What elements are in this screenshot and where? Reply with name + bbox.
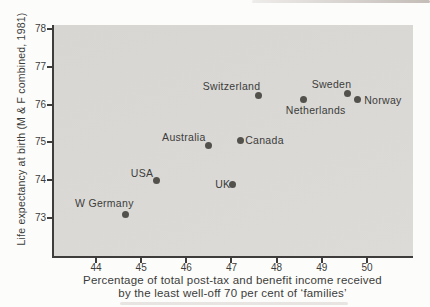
y-axis-label: Life expectancy at birth (M & F combined… xyxy=(15,13,27,246)
data-point-label-sweden: Sweden xyxy=(312,78,352,90)
data-point-label-usa: USA xyxy=(131,167,154,179)
data-point-label-switzerland: Switzerland xyxy=(203,80,261,92)
x-axis-label-line1: Percentage of total post-tax and benefit… xyxy=(52,274,413,286)
plot-area xyxy=(52,25,413,258)
scan-artifact-top xyxy=(252,0,430,3)
data-point-canada xyxy=(237,137,244,144)
data-point-label-netherlands: Netherlands xyxy=(286,104,346,116)
y-tick xyxy=(47,28,52,30)
scan-artifact-bottom xyxy=(120,302,348,305)
y-tick xyxy=(47,104,52,106)
x-tick-label: 50 xyxy=(357,262,377,273)
x-axis-label-line2: by the least well-off 70 per cent of ‘fa… xyxy=(52,287,413,299)
y-tick xyxy=(47,141,52,143)
y-tick-label: 77 xyxy=(28,61,46,72)
data-point-label-australia: Australia xyxy=(162,131,206,143)
y-tick-label: 73 xyxy=(28,212,46,223)
y-tick-label: 76 xyxy=(28,99,46,110)
y-tick-label: 74 xyxy=(28,174,46,185)
data-point-label-norway: Norway xyxy=(364,94,401,106)
x-tick-label: 44 xyxy=(86,262,106,273)
data-point-label-canada: Canada xyxy=(245,134,284,146)
x-tick-label: 46 xyxy=(176,262,196,273)
x-tick-label: 48 xyxy=(267,262,287,273)
data-point-label-uk: UK xyxy=(215,178,230,190)
y-tick-label: 75 xyxy=(28,136,46,147)
y-tick xyxy=(47,217,52,219)
y-tick xyxy=(47,66,52,68)
y-tick xyxy=(47,179,52,181)
x-tick-label: 49 xyxy=(312,262,332,273)
data-point-usa xyxy=(153,177,160,184)
y-tick-label: 78 xyxy=(28,23,46,34)
data-point-label-w-germany: W Germany xyxy=(75,197,134,209)
x-tick-label: 47 xyxy=(221,262,241,273)
data-point-w-germany xyxy=(122,211,129,218)
x-tick-label: 45 xyxy=(131,262,151,273)
scatter-plot-figure: Life expectancy at birth (M & F combined… xyxy=(0,0,430,307)
